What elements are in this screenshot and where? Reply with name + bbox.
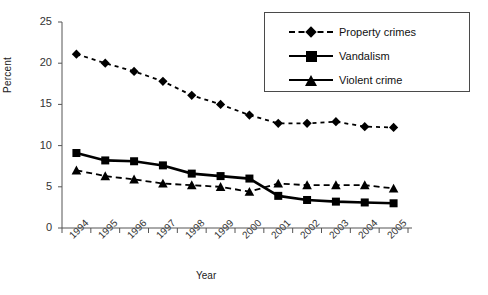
data-point-marker bbox=[158, 77, 167, 86]
legend-item-property-crimes: Property crimes bbox=[289, 20, 469, 44]
data-point-marker bbox=[303, 196, 311, 204]
data-point-marker bbox=[130, 157, 138, 165]
data-point-marker bbox=[159, 161, 167, 169]
series-line-violent-crime bbox=[76, 170, 393, 191]
chart-legend: Property crimes Vandalism Violent crime bbox=[264, 12, 470, 92]
data-point-marker bbox=[389, 123, 398, 132]
data-point-marker bbox=[216, 100, 225, 109]
data-point-marker bbox=[187, 91, 196, 100]
legend-key-vandalism bbox=[289, 49, 333, 63]
legend-label-property-crimes: Property crimes bbox=[339, 26, 416, 38]
series-line-vandalism bbox=[76, 153, 393, 203]
data-point-marker bbox=[332, 198, 340, 206]
data-point-marker bbox=[245, 175, 253, 183]
data-point-marker bbox=[389, 184, 399, 193]
data-point-marker bbox=[101, 156, 109, 164]
legend-key-property-crimes bbox=[289, 25, 333, 39]
data-point-marker bbox=[331, 117, 340, 126]
data-point-marker bbox=[72, 50, 81, 59]
line-chart: Percent Year 0510152025 1994199519961997… bbox=[0, 0, 488, 295]
data-point-marker bbox=[360, 122, 369, 131]
data-point-marker bbox=[72, 149, 80, 157]
data-point-marker bbox=[390, 199, 398, 207]
data-point-marker bbox=[273, 179, 283, 188]
data-point-marker bbox=[101, 59, 110, 68]
data-point-marker bbox=[217, 172, 225, 180]
diamond-marker-icon bbox=[305, 26, 316, 37]
legend-key-violent-crime bbox=[289, 73, 333, 87]
data-point-marker bbox=[72, 166, 82, 175]
square-marker-icon bbox=[306, 51, 317, 62]
data-point-marker bbox=[188, 170, 196, 178]
legend-item-vandalism: Vandalism bbox=[289, 44, 469, 68]
data-point-marker bbox=[274, 119, 283, 128]
legend-item-violent-crime: Violent crime bbox=[289, 68, 469, 92]
legend-label-vandalism: Vandalism bbox=[339, 50, 390, 62]
data-point-marker bbox=[302, 119, 311, 128]
data-point-marker bbox=[245, 111, 254, 120]
data-point-marker bbox=[129, 67, 138, 76]
data-point-marker bbox=[274, 192, 282, 200]
data-point-marker bbox=[361, 198, 369, 206]
triangle-marker-icon bbox=[305, 75, 317, 86]
legend-label-violent-crime: Violent crime bbox=[339, 74, 402, 86]
